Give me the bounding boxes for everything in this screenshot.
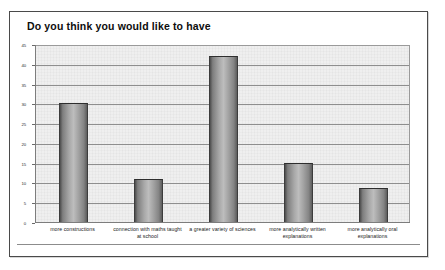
plot-area (35, 45, 410, 223)
bar (134, 179, 163, 223)
bar (209, 56, 238, 222)
x-axis-labels: more constructionsconnection with maths … (35, 226, 410, 256)
y-axis-tick-label: 45 (10, 43, 26, 48)
x-axis-tick-label: more analytically written explanations (263, 226, 332, 241)
bar (284, 163, 313, 222)
y-axis-tick-label: 35 (10, 82, 26, 87)
y-axis-tick-label: 15 (10, 161, 26, 166)
chart-figure: Do you think you would like to have 0510… (9, 11, 428, 257)
y-axis-tick-label: 40 (10, 62, 26, 67)
x-axis-tick-label: a greater variety of sciences (188, 226, 257, 233)
x-axis-tick-label: more analytically oral explanations (338, 226, 407, 241)
y-axis-tick-label: 30 (10, 102, 26, 107)
chart-title: Do you think you would like to have (27, 20, 211, 32)
footer-divider (17, 244, 420, 245)
bar (359, 188, 388, 222)
y-axis-tick-label: 20 (10, 141, 26, 146)
y-axis-tick-mark (32, 223, 35, 224)
y-axis-tick-label: 25 (10, 122, 26, 127)
y-axis-tick-label: 10 (10, 181, 26, 186)
bar (59, 103, 88, 222)
gridline (36, 45, 410, 46)
y-axis-tick-label: 0 (10, 221, 26, 226)
y-axis-tick-label: 5 (10, 201, 26, 206)
x-axis-tick-label: connection with maths taught at school (113, 226, 182, 241)
x-axis-tick-label: more constructions (38, 226, 107, 233)
